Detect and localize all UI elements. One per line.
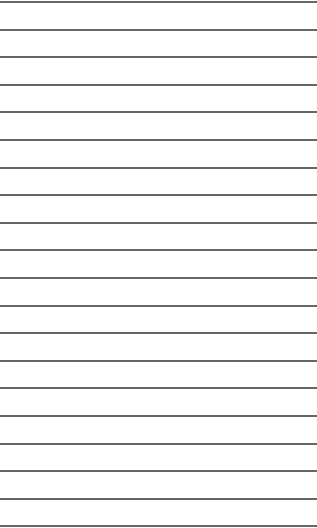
ruled-line xyxy=(0,222,317,224)
ruled-line xyxy=(0,84,317,86)
ruled-line xyxy=(0,470,317,472)
ruled-line xyxy=(0,415,317,417)
ruled-line xyxy=(0,56,317,58)
ruled-line xyxy=(0,305,317,307)
ruled-line xyxy=(0,194,317,196)
ruled-line xyxy=(0,249,317,251)
ruled-line xyxy=(0,498,317,500)
ruled-line xyxy=(0,29,317,31)
ruled-line xyxy=(0,139,317,141)
ruled-line xyxy=(0,277,317,279)
ruled-line xyxy=(0,332,317,334)
ruled-line xyxy=(0,387,317,389)
ruled-line xyxy=(0,1,317,3)
ruled-line xyxy=(0,167,317,169)
ruled-line xyxy=(0,360,317,362)
ruled-line xyxy=(0,111,317,113)
ruled-line xyxy=(0,525,317,527)
ruled-line xyxy=(0,443,317,445)
